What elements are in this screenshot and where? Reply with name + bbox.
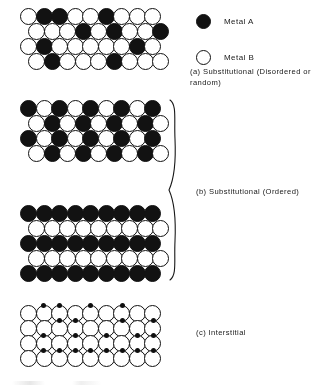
lattice-row [28,53,168,69]
atom-metal-a [98,265,115,282]
interstitial-atom [57,318,62,323]
atom-metal-a [106,145,123,162]
interstitial-atom [73,333,78,338]
interstitial-atom [151,348,156,353]
interstitial-atom [151,318,156,323]
interstitial-atom [41,348,46,353]
interstitial-atom [104,348,109,353]
interstitial-atom [120,318,125,323]
atom-metal-b [28,145,45,162]
atom-host [51,350,68,367]
atom-metal-a [67,265,84,282]
interstitial-atom [120,303,125,308]
caption-b: (b) Substitutional (Ordered) [196,186,314,197]
lattice-row [20,8,168,24]
atom-metal-a [36,265,53,282]
atom-metal-b [152,145,169,162]
atom-metal-b [121,145,138,162]
page-edge-artifact [12,381,162,385]
atom-metal-b [90,145,107,162]
lattice-row [20,350,160,366]
atom-host [129,350,146,367]
open-circle-icon [196,50,211,65]
lattice-row [20,235,168,251]
lattice-row [20,130,168,146]
atom-metal-a [20,265,37,282]
atom-metal-a [129,265,146,282]
lattice-row [20,100,168,116]
interstitial-atom [73,318,78,323]
atom-metal-a [44,145,61,162]
atom-metal-a [51,265,68,282]
atom-metal-a [44,53,61,70]
lattice-substitutional-ordered-layered [20,205,168,280]
lattice-row [20,305,160,321]
lattice-row [28,145,168,161]
atom-metal-a [82,265,99,282]
atom-metal-b [152,53,169,70]
interstitial-atom [88,303,93,308]
lattice-substitutional-disordered [20,8,168,68]
interstitial-atom [120,348,125,353]
atom-host [67,350,84,367]
atom-metal-b [75,53,92,70]
filled-circle-icon [196,14,211,29]
atom-metal-a [144,265,161,282]
atom-host [144,350,161,367]
lattice-row [28,250,168,266]
atom-metal-b [28,53,45,70]
lattice-interstitial [20,305,160,365]
interstitial-atom [41,303,46,308]
atom-host [36,350,53,367]
legend-label-metal-a: Metal A [224,17,254,26]
interstitial-atom [135,333,140,338]
atom-metal-b [121,53,138,70]
interstitial-atom [73,348,78,353]
atom-metal-b [59,53,76,70]
atom-host [113,350,130,367]
atom-metal-b [59,145,76,162]
caption-c: (c) Interstitial [196,327,314,338]
atom-metal-a [113,265,130,282]
interstitial-atom [104,333,109,338]
legend-item-metal-a: Metal A [196,8,314,34]
brace-ordered-group [168,99,188,281]
legend-label-metal-b: Metal B [224,53,254,62]
interstitial-atom [57,348,62,353]
interstitial-atom [151,333,156,338]
legend: Metal A Metal B [196,8,314,70]
atom-host [20,350,37,367]
atom-metal-b [137,53,154,70]
interstitial-atom [135,348,140,353]
atom-metal-a [137,145,154,162]
interstitial-atom [88,348,93,353]
caption-a: (a) Substitutional (Disordered or random… [190,66,314,88]
lattice-row [28,220,168,236]
atom-metal-b [90,53,107,70]
lattice-row [28,115,168,131]
atom-host [82,350,99,367]
lattice-substitutional-ordered-checkerboard [20,100,168,160]
atom-metal-a [75,145,92,162]
alloy-structure-figure: Metal A Metal B (a) Substitutional (Diso… [0,0,314,390]
lattice-row [28,23,168,39]
atom-metal-a [106,53,123,70]
interstitial-atom [41,333,46,338]
lattice-row [20,265,168,281]
lattice-row [20,38,168,54]
lattice-row [20,205,168,221]
interstitial-atom [57,303,62,308]
atom-host [98,350,115,367]
